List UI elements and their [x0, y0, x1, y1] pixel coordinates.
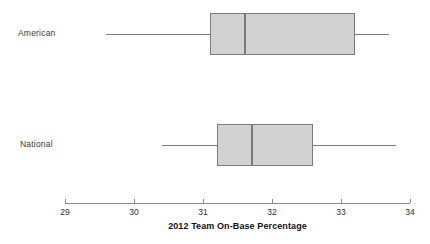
boxplot-chart: American National 293031323334 2012 Team… — [0, 0, 430, 244]
x-tick-label-30: 30 — [129, 207, 138, 217]
x-tick-label-29: 29 — [60, 207, 69, 217]
x-tick-label-31: 31 — [198, 207, 207, 217]
category-label-american: American — [18, 28, 56, 38]
x-tick-label-33: 33 — [336, 207, 345, 217]
x-tick-32 — [272, 199, 273, 203]
x-tick-29 — [65, 199, 66, 203]
x-tick-34 — [410, 199, 411, 203]
x-axis-title: 2012 Team On-Base Percentage — [168, 221, 307, 231]
x-tick-label-34: 34 — [405, 207, 414, 217]
box-american — [210, 13, 355, 55]
whisker-upper — [313, 145, 396, 146]
category-label-national: National — [20, 139, 53, 149]
whisker-upper — [355, 34, 390, 35]
plot-area: American National 293031323334 2012 Team… — [0, 0, 430, 244]
x-tick-31 — [203, 199, 204, 203]
x-tick-label-32: 32 — [267, 207, 276, 217]
median-line-american — [244, 13, 245, 55]
whisker-lower — [162, 145, 217, 146]
median-line-national — [251, 124, 252, 166]
x-tick-30 — [134, 199, 135, 203]
x-axis-line — [65, 203, 410, 204]
box-national — [217, 124, 314, 166]
whisker-lower — [106, 34, 210, 35]
x-tick-33 — [341, 199, 342, 203]
